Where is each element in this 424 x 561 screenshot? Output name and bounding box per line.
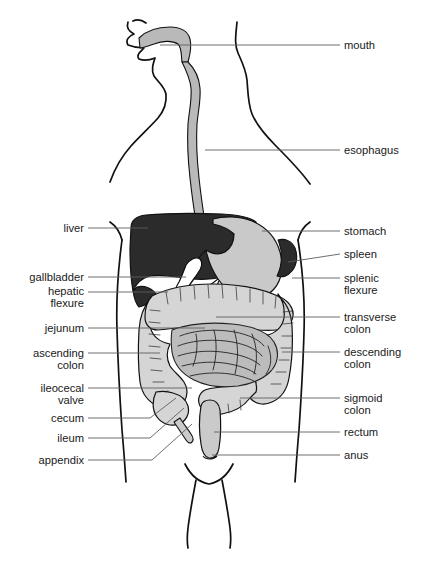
pelvis-and-legs bbox=[185, 464, 233, 548]
diagram-canvas: liver gallbladder hepatic flexure jejunu… bbox=[0, 0, 424, 561]
mouth-organ bbox=[139, 27, 191, 62]
label-transverse-colon-line1[interactable]: transverse bbox=[344, 311, 396, 323]
label-ileocecal-valve-line1[interactable]: ileocecal bbox=[40, 382, 84, 394]
labels-left: liver gallbladder hepatic flexure jejunu… bbox=[29, 222, 84, 466]
label-esophagus[interactable]: esophagus bbox=[344, 144, 399, 156]
label-mouth[interactable]: mouth bbox=[344, 39, 375, 51]
label-gallbladder[interactable]: gallbladder bbox=[29, 271, 84, 283]
digestive-system-diagram: liver gallbladder hepatic flexure jejunu… bbox=[0, 0, 424, 561]
label-ileocecal-valve-line2[interactable]: valve bbox=[58, 394, 84, 406]
label-transverse-colon-line2[interactable]: colon bbox=[344, 323, 371, 335]
label-sigmoid-colon-line2[interactable]: colon bbox=[344, 404, 371, 416]
small-intestine-organ bbox=[171, 323, 277, 387]
label-splenic-flexure-line1[interactable]: splenic bbox=[344, 272, 379, 284]
label-sigmoid-colon-line1[interactable]: sigmoid bbox=[344, 392, 383, 404]
labels-right: mouth esophagus stomach spleen splenic f… bbox=[344, 39, 401, 461]
label-splenic-flexure-line2[interactable]: flexure bbox=[344, 284, 378, 296]
label-ileum[interactable]: ileum bbox=[57, 432, 84, 444]
label-anus[interactable]: anus bbox=[344, 449, 369, 461]
label-appendix[interactable]: appendix bbox=[39, 454, 85, 466]
label-ascending-colon-line2[interactable]: colon bbox=[57, 359, 84, 371]
label-spleen[interactable]: spleen bbox=[344, 248, 377, 260]
label-liver[interactable]: liver bbox=[63, 222, 84, 234]
label-descending-colon-line2[interactable]: colon bbox=[344, 358, 371, 370]
rectum-organ bbox=[200, 400, 221, 458]
esophagus-organ bbox=[182, 62, 205, 222]
label-jejunum[interactable]: jejunum bbox=[44, 322, 84, 334]
label-cecum[interactable]: cecum bbox=[51, 412, 84, 424]
label-stomach[interactable]: stomach bbox=[344, 225, 386, 237]
label-hepatic-flexure-line2[interactable]: flexure bbox=[50, 297, 84, 309]
label-ascending-colon-line1[interactable]: ascending bbox=[33, 347, 84, 359]
label-descending-colon-line1[interactable]: descending bbox=[344, 346, 401, 358]
label-hepatic-flexure-line1[interactable]: hepatic bbox=[48, 285, 84, 297]
label-rectum[interactable]: rectum bbox=[344, 426, 378, 438]
